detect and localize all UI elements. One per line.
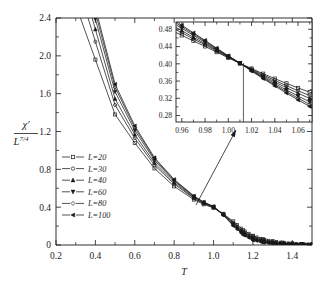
y-axis-denominator-exponent: 7/4 [19,135,28,143]
x-tick-label: 1.2 [247,251,259,261]
legend-marker-triangle-left-filled [71,213,75,217]
legend: L=20L=30L=40L=60L=80L=100 [62,153,110,220]
x-tick-label: 0.8 [168,251,180,261]
legend-label: L=60 [87,188,106,197]
legend-item-l-80[interactable]: L=80 [62,199,106,208]
legend-marker-diamond-open [71,201,75,205]
legend-marker-triangle-up-filled [71,178,75,182]
inset-x-tick-label: 1.06 [291,126,304,135]
inset-x-tick-label: 0.96 [175,126,188,135]
chart-canvas: 0.20.40.60.81.01.21.400.40.81.21.62.02.4… [0,0,328,294]
legend-item-l-100[interactable]: L=100 [62,211,110,220]
x-tick-label: 1.0 [208,251,220,261]
y-axis-denominator: L7/4 [13,135,29,147]
y-tick-label: 0.4 [39,203,51,213]
chart-figure: 0.20.40.60.81.01.21.400.40.81.21.62.02.4… [0,0,328,294]
legend-label: L=80 [87,199,106,208]
legend-marker-square-open [71,155,74,158]
inset-y-tick-label: 0.36 [159,77,172,86]
inset-y-tick-label: 0.40 [159,60,172,69]
y-tick-label: 1.2 [39,127,51,137]
y-tick-label: 0.8 [39,165,51,175]
inset-x-tick-label: 0.98 [198,126,211,135]
x-axis-title: T [181,266,188,277]
y-tick-label: 0 [46,240,51,250]
y-tick-label: 2.4 [39,13,51,23]
data-point [94,27,98,31]
inset-y-tick-label: 0.48 [159,25,172,34]
y-tick-label: 1.6 [39,89,51,99]
inset-x-tick-label: 1.04 [268,126,281,135]
x-tick-label: 0.4 [89,251,101,261]
legend-marker-triangle-down-filled [71,190,75,194]
inset-y-tick-label: 0.32 [159,94,172,103]
legend-item-l-60[interactable]: L=60 [62,188,106,197]
inset-y-tick-label: 0.28 [159,111,172,120]
legend-item-l-30[interactable]: L=30 [62,165,106,174]
legend-label: L=20 [87,153,106,162]
x-tick-label: 0.2 [50,251,62,261]
legend-label: L=30 [87,165,106,174]
legend-label: L=40 [87,176,106,185]
x-tick-label: 0.6 [129,251,141,261]
legend-marker-circle-open [71,167,74,170]
x-tick-label: 1.4 [286,251,298,261]
legend-item-l-20[interactable]: L=20 [62,153,106,162]
legend-label: L=100 [87,211,110,220]
inset-y-tick-label: 0.44 [159,42,172,51]
y-tick-label: 2.0 [39,51,51,61]
y-axis-title: χ′L7/4 [13,119,38,147]
data-point [113,97,117,101]
arrow-shaft [196,130,236,205]
y-axis-numerator: χ′ [22,119,31,130]
legend-item-l-40[interactable]: L=40 [62,176,106,185]
inset-x-tick-label: 1.02 [245,126,258,135]
inset-pointer-arrow [196,130,236,205]
